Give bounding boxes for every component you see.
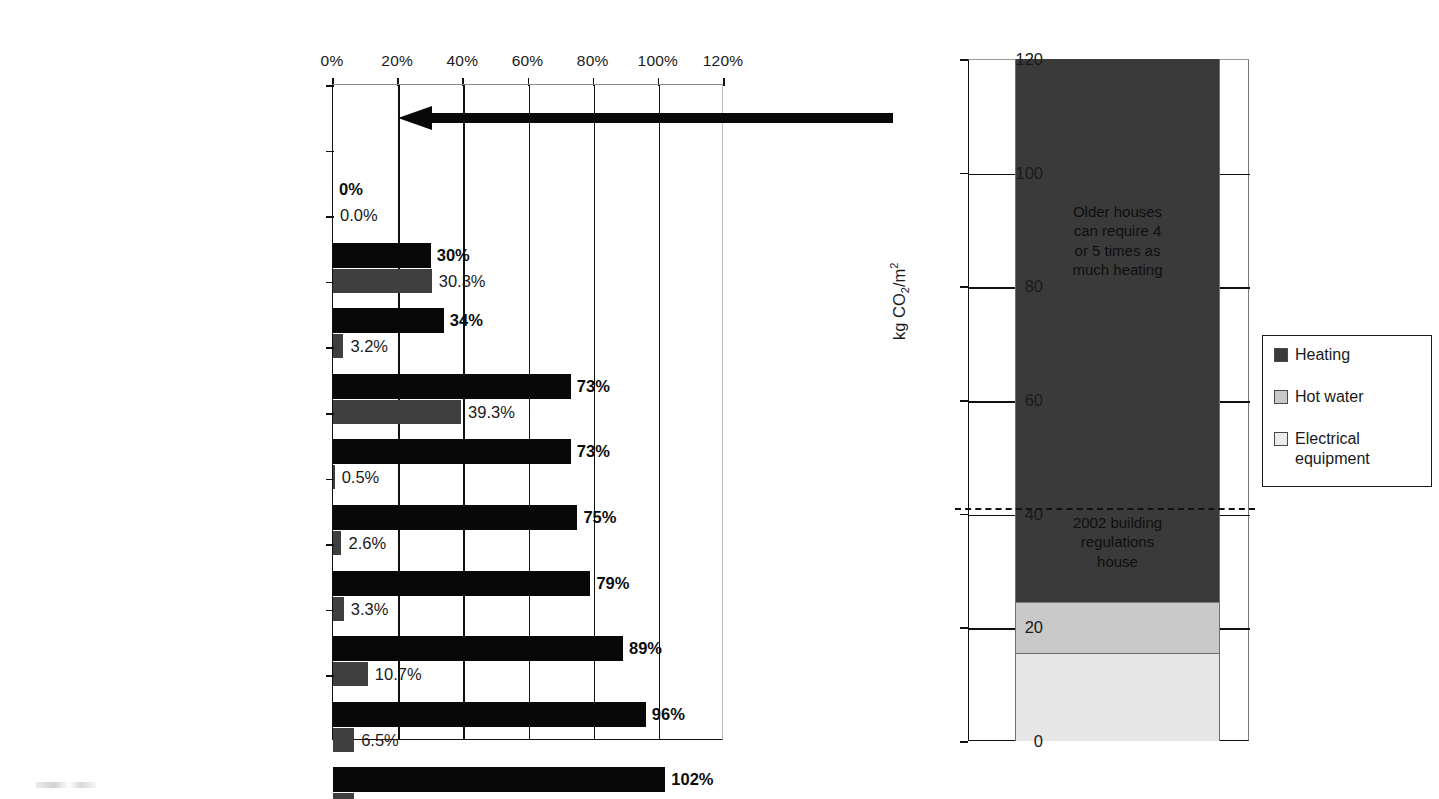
- legend-item-electrical: Electrical equipment: [1274, 429, 1421, 469]
- left-plot-area: 0%0.0%30%30.3%34%3.2%73%39.3%73%0.5%75%2…: [332, 84, 723, 740]
- bar-value-label-incremental: 30.3%: [432, 269, 486, 293]
- y-tick-label-120: 120: [1015, 50, 1043, 69]
- x-tick-label-100: 100%: [638, 52, 678, 70]
- bar-row: 30%30.3%: [333, 243, 724, 293]
- bar-cumulative: [333, 571, 590, 596]
- bar-incremental: [333, 531, 341, 555]
- bar-row: 79%3.3%: [333, 571, 724, 621]
- x-tick-label-80: 80%: [577, 52, 609, 70]
- y-tick-label-20: 20: [1025, 618, 1043, 637]
- bar-row: 73%0.5%: [333, 439, 724, 489]
- x-tick-label-40: 40%: [447, 52, 479, 70]
- bar-value-label-incremental: 6.5%: [354, 728, 399, 752]
- bar-value-label-incremental: 6.4%: [354, 793, 399, 799]
- bar-incremental: [333, 400, 461, 424]
- bar-value-label-incremental: 39.3%: [461, 400, 515, 424]
- x-tick-label-120: 120%: [703, 52, 743, 70]
- bar-cumulative: [333, 702, 646, 727]
- bar-value-label-cumulative: 75%: [577, 505, 616, 530]
- y-tick-mark-100: [960, 173, 968, 175]
- y-tick-mark: [326, 85, 334, 87]
- stack-segment-hotwater: [1016, 602, 1219, 653]
- y-axis-label-sub: 2: [899, 287, 911, 293]
- y-tick-mark-20: [960, 627, 968, 629]
- bar-value-label-cumulative: 30%: [431, 243, 470, 268]
- stacked-bar: Older houses can require 4 or 5 times as…: [1015, 59, 1220, 741]
- bar-cumulative: [333, 505, 577, 530]
- y-tick-mark-120: [960, 59, 968, 61]
- legend-label-heating: Heating: [1295, 345, 1350, 365]
- y-tick-mark: [326, 675, 334, 677]
- right-stacked-bar-chart: Older houses can require 4 or 5 times as…: [860, 0, 1439, 799]
- y-axis-label-mid: /m: [890, 269, 908, 287]
- y-tick-mark: [326, 479, 334, 481]
- bar-cumulative: [333, 308, 444, 333]
- y-tick-mark: [326, 610, 334, 612]
- y-tick-label-0: 0: [1034, 732, 1043, 751]
- y-tick-mark-80: [960, 286, 968, 288]
- older-houses-note: Older houses can require 4 or 5 times as…: [1016, 202, 1219, 280]
- reference-line-2002-regs: [955, 508, 1255, 510]
- y-tick-label-100: 100: [1015, 163, 1043, 182]
- right-y-axis-label: kg CO2/m2: [888, 263, 911, 340]
- regs-house-note: 2002 building regulations house: [1016, 513, 1219, 572]
- bar-value-label-incremental: 3.3%: [344, 597, 389, 621]
- bar-row: 0%0.0%: [333, 177, 724, 227]
- y-axis-label-prefix: kg CO: [890, 293, 908, 340]
- bar-incremental: [333, 662, 368, 686]
- bar-value-label-cumulative: 0%: [333, 177, 363, 202]
- bar-value-label-cumulative: 96%: [646, 702, 685, 727]
- bar-value-label-cumulative: 89%: [623, 636, 662, 661]
- legend-swatch-electrical: [1274, 432, 1288, 446]
- y-tick-mark: [326, 216, 334, 218]
- bar-value-label-cumulative: 102%: [665, 767, 713, 792]
- y-tick-label-40: 40: [1025, 504, 1043, 523]
- legend: Heating Hot water Electrical equipment: [1262, 335, 1432, 487]
- legend-label-electrical: Electrical equipment: [1295, 429, 1370, 469]
- bar-row: 89%10.7%: [333, 636, 724, 686]
- bar-cumulative: [333, 767, 665, 792]
- bar-cumulative: [333, 439, 571, 464]
- bar-value-label-cumulative: 79%: [590, 571, 629, 596]
- bar-value-label-cumulative: 73%: [571, 374, 610, 399]
- bar-incremental: [333, 793, 354, 799]
- bar-value-label-incremental: 0.0%: [333, 203, 378, 227]
- page-artifact: [36, 782, 96, 788]
- legend-swatch-heating: [1274, 348, 1288, 362]
- legend-item-hot-water: Hot water: [1274, 387, 1421, 407]
- bar-value-label-incremental: 0.5%: [335, 465, 380, 489]
- legend-swatch-hot-water: [1274, 390, 1288, 404]
- x-tick-label-20: 20%: [381, 52, 413, 70]
- legend-label-hot-water: Hot water: [1295, 387, 1363, 407]
- bar-row: 75%2.6%: [333, 505, 724, 555]
- bar-incremental: [333, 269, 432, 293]
- baseline-arrow-icon: [398, 105, 893, 131]
- y-axis-label-sup: 2: [888, 263, 900, 269]
- bar-row: 102%6.4%: [333, 767, 724, 799]
- bar-value-label-incremental: 3.2%: [343, 334, 388, 358]
- bar-incremental: [333, 334, 343, 358]
- bar-cumulative: [333, 243, 431, 268]
- bar-value-label-incremental: 10.7%: [368, 662, 422, 686]
- bar-incremental: [333, 597, 344, 621]
- y-tick-label-80: 80: [1025, 277, 1043, 296]
- y-tick-mark-60: [960, 400, 968, 402]
- bar-value-label-incremental: 2.6%: [341, 531, 386, 555]
- bar-cumulative: [333, 636, 623, 661]
- bar-cumulative: [333, 374, 571, 399]
- y-tick-mark: [326, 282, 334, 284]
- bar-value-label-cumulative: 73%: [571, 439, 610, 464]
- legend-item-heating: Heating: [1274, 345, 1421, 365]
- x-tick-mark-120: [723, 78, 725, 86]
- left-bar-chart: 0%20%40%60%80%100%120% 0%0.0%30%30.3%34%…: [0, 0, 780, 799]
- bar-incremental: [333, 728, 354, 752]
- x-tick-label-60: 60%: [512, 52, 544, 70]
- y-tick-mark: [326, 413, 334, 415]
- bar-row: 73%39.3%: [333, 374, 724, 424]
- bar-row: 96%6.5%: [333, 702, 724, 752]
- bar-row: 34%3.2%: [333, 308, 724, 358]
- y-tick-mark: [326, 544, 334, 546]
- bar-value-label-cumulative: 34%: [444, 308, 483, 333]
- y-tick-mark-40: [960, 514, 968, 516]
- stack-segment-electrical: [1016, 653, 1219, 741]
